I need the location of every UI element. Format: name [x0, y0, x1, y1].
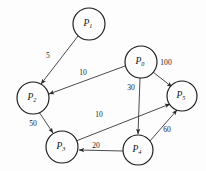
edge-weight-label: 10 — [95, 110, 103, 119]
graph-edge-p0-to-p4 — [138, 78, 140, 134]
graph-edge-p1-to-p2 — [41, 36, 78, 84]
graph-node-p4[interactable]: P4 — [123, 135, 153, 165]
graph-edge-p3-to-p5 — [76, 104, 170, 141]
graph-edge-p0-to-p5 — [153, 72, 172, 87]
diagram-canvas: 5101003050102060 P0P1P2P3P4P5 — [0, 0, 206, 171]
graph-node-p2[interactable]: P2 — [17, 82, 49, 114]
node-label-subscript: 2 — [33, 96, 36, 103]
edge-weight-label: 20 — [92, 141, 100, 150]
graph-node-p0[interactable]: P0 — [125, 46, 157, 78]
node-label-subscript: 1 — [89, 22, 92, 29]
edge-weight-label: 30 — [127, 83, 135, 92]
graph-node-p1[interactable]: P1 — [73, 8, 105, 40]
node-label-subscript: 3 — [61, 145, 65, 152]
nodes-layer: P0P1P2P3P4P5 — [17, 8, 197, 165]
node-label-subscript: 4 — [138, 148, 141, 155]
directed-graph: 5101003050102060 P0P1P2P3P4P5 — [0, 0, 206, 171]
graph-edge-p4-to-p3 — [79, 150, 123, 151]
edge-weight-label: 50 — [29, 119, 37, 128]
graph-node-p5[interactable]: P5 — [167, 81, 197, 111]
graph-edge-p2-to-p3 — [39, 112, 53, 133]
edge-weight-label: 5 — [46, 51, 50, 60]
graph-node-p3[interactable]: P3 — [46, 131, 78, 163]
node-label-subscript: 5 — [182, 94, 185, 101]
edge-weight-label: 100 — [160, 58, 172, 67]
graph-edge-p0-to-p2 — [49, 66, 125, 94]
edge-weight-label: 10 — [79, 68, 87, 77]
edge-weight-label: 60 — [163, 125, 171, 134]
